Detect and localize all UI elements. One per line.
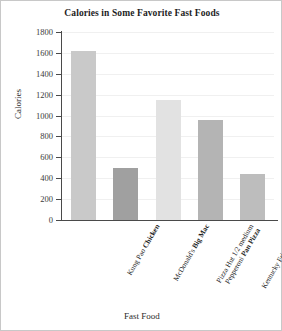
x-axis-label-line: McDonald's Big Mac <box>172 223 211 283</box>
bar-chart: Calories in Some Favorite Fast Foods 020… <box>0 0 282 331</box>
plot-area <box>62 32 274 220</box>
y-axis-title: Calories <box>13 59 23 149</box>
x-axis-line <box>56 220 278 221</box>
bar-pizza-hut-pan-pizza <box>156 100 181 220</box>
x-axis-title: Fast Food <box>1 311 282 321</box>
bar-taco-bell-beef-burrito <box>240 174 265 220</box>
x-axis-label-line: Kung Pao Chicken <box>126 223 162 277</box>
bar-mcdonalds-big-mac <box>113 168 138 220</box>
gridline <box>62 32 274 33</box>
x-axis-label-kfc-2-piece-dinner: Kentucky Fried Chicken2-piece dinner <box>261 223 282 294</box>
y-axis-tick-label: 1400 <box>1 69 53 79</box>
y-axis-tick-label: 1600 <box>1 48 53 58</box>
y-axis-tick-label: 0 <box>1 215 53 225</box>
bar-kfc-2-piece-dinner <box>198 120 223 220</box>
x-axis-label-mcdonalds-big-mac: McDonald's Big Mac <box>172 223 211 283</box>
y-axis-tick-label: 600 <box>1 152 53 162</box>
y-axis-tick-label: 200 <box>1 194 53 204</box>
chart-title: Calories in Some Favorite Fast Foods <box>1 8 282 18</box>
y-axis-tick-label: 1800 <box>1 27 53 37</box>
y-axis-tick-label: 1200 <box>1 90 53 100</box>
x-axis-label-kung-pao-chicken: Kung Pao Chicken <box>126 223 162 277</box>
bar-kung-pao-chicken <box>71 51 96 220</box>
y-axis-tick-label: 800 <box>1 131 53 141</box>
x-axis-label-pizza-hut-pan-pizza: Pizza Hut 1/2 mediumPepperoni Pan Pizza <box>215 223 263 289</box>
y-axis-tick-label: 1000 <box>1 111 53 121</box>
y-axis-tick-label: 400 <box>1 173 53 183</box>
